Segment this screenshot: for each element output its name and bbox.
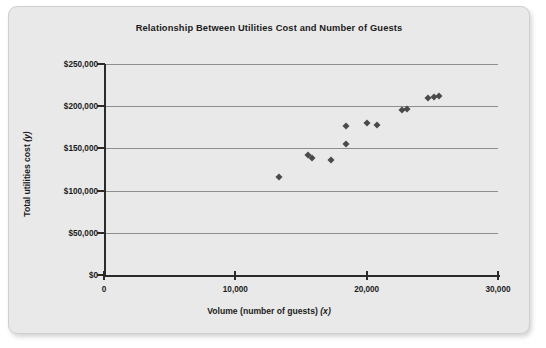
y-axis-tick-label: $250,000 bbox=[8, 60, 98, 69]
x-axis-tick bbox=[366, 271, 368, 280]
chart-card: Relationship Between Utilities Cost and … bbox=[8, 6, 530, 334]
x-axis-line bbox=[104, 275, 500, 277]
x-axis-tick-label: 20,000 bbox=[327, 285, 407, 294]
x-axis-tick-label: 10,000 bbox=[195, 285, 275, 294]
data-point bbox=[374, 121, 381, 128]
data-point bbox=[328, 157, 335, 164]
chart-title: Relationship Between Utilities Cost and … bbox=[9, 23, 529, 33]
x-axis-tick-label: 30,000 bbox=[458, 285, 538, 294]
y-axis-tick bbox=[97, 105, 105, 107]
y-axis-tick-label: $0 bbox=[8, 271, 98, 280]
gridline bbox=[104, 64, 498, 65]
x-axis-tick bbox=[103, 271, 105, 280]
gridline bbox=[104, 148, 498, 149]
y-axis-tick-label: $100,000 bbox=[8, 186, 98, 195]
y-axis-line bbox=[104, 64, 106, 276]
y-axis-tick bbox=[97, 232, 105, 234]
plot-area bbox=[104, 64, 498, 275]
y-axis-tick-label: $150,000 bbox=[8, 144, 98, 153]
y-axis-title: Total utilities cost (y) bbox=[22, 104, 32, 244]
x-axis-tick bbox=[497, 271, 499, 280]
x-axis-tick-label: 0 bbox=[64, 285, 144, 294]
y-axis-tick bbox=[97, 63, 105, 65]
y-axis-tick bbox=[97, 147, 105, 149]
x-axis-title-text: Volume (number of guests) bbox=[207, 306, 320, 316]
data-point bbox=[435, 93, 442, 100]
data-point bbox=[342, 123, 349, 130]
x-axis-title: Volume (number of guests) (x) bbox=[9, 306, 529, 316]
x-axis-tick bbox=[234, 271, 236, 280]
y-axis-title-text: Total utilities cost bbox=[22, 142, 32, 217]
y-axis-tick bbox=[97, 190, 105, 192]
data-point bbox=[363, 120, 370, 127]
gridline bbox=[104, 233, 498, 234]
y-axis-tick-label: $50,000 bbox=[8, 228, 98, 237]
y-axis-tick-label: $200,000 bbox=[8, 102, 98, 111]
y-axis-variable: (y) bbox=[22, 131, 32, 142]
data-point bbox=[342, 141, 349, 148]
data-point bbox=[275, 174, 282, 181]
gridline bbox=[104, 106, 498, 107]
gridline bbox=[104, 191, 498, 192]
x-axis-variable: (x) bbox=[320, 306, 331, 316]
